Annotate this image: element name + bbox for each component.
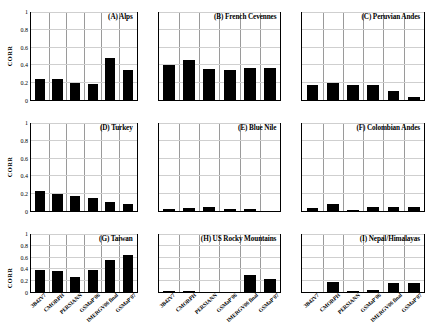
y-axis-ticks: 00.20.40.60.81 [0,111,30,222]
bar-slot [49,13,67,100]
bar-slot [343,124,363,211]
y-axis-ticks: 00.20.40.60.81 [144,111,158,222]
bar [70,196,80,211]
bar-series [159,124,281,211]
bar-slot [66,13,84,100]
x-tick-label: 3B42V7 [303,292,321,309]
axes-frame: (B) French Cevennes [158,12,282,101]
y-axis-ticks: 00.20.40.60.81 [0,222,30,333]
bar [105,260,115,292]
bar-slot [49,235,67,292]
bar [163,209,175,211]
bar-series [159,235,281,292]
bar-slot [159,124,179,211]
axes-frame: (E) Blue Nile [158,123,282,212]
bar-slot [404,13,424,100]
bar-series [302,13,424,100]
bar [35,270,45,292]
y-axis-ticks: 00.20.40.60.81 [287,111,301,222]
bar-slot [363,235,383,292]
y-tick-label: 0 [25,98,28,104]
y-tick-label: 0.2 [21,80,29,86]
bar [123,255,133,292]
bar-slot [302,13,322,100]
plot-area: (G) Taiwan [30,234,138,293]
bar-series [31,235,137,292]
bar [35,191,45,211]
y-axis-ticks: 00.20.40.60.81 [144,0,158,111]
bar-slot [323,235,343,292]
panel-title: (G) Taiwan [99,235,133,243]
bar-slot [84,235,102,292]
panel-title: (D) Turkey [100,124,133,132]
bar-slot [260,124,280,211]
bar-slot [31,235,49,292]
bar [367,85,379,100]
bar-slot [383,13,403,100]
panel-title: (E) Blue Nile [238,124,276,132]
panel-i: 00.20.40.60.81(I) Nepal/Himalayas3B42V7C… [287,222,431,333]
panel-h: 00.20.40.60.81(H) US Rocky Mountains3B42… [144,222,288,333]
bar-series [31,13,137,100]
plot-area: (A) Alps [30,12,138,101]
bar-slot [404,124,424,211]
bar-slot [383,235,403,292]
x-axis-ticks: 3B42V7CMORPHPERSIANNGSMaP'06IMERGV06 fin… [30,291,138,333]
y-tick-label: 0.4 [21,266,29,272]
plot-area: (C) Peruvian Andes [301,12,425,101]
bar [183,60,195,100]
bar-slot [101,124,119,211]
panel-title: (C) Peruvian Andes [362,13,421,21]
bar [123,204,133,211]
panel-b: 00.20.40.60.81(B) French Cevennes [144,0,288,111]
bar-slot [199,235,219,292]
bar [388,91,400,100]
panel-title: (I) Nepal/Himalayas [360,235,420,243]
panel-g: 00.20.40.60.81CORR(G) Taiwan3B42V7CMORPH… [0,222,144,333]
y-tick-label: 0.4 [21,173,29,179]
figure-bar-chart-grid: 00.20.40.60.81CORR(A) Alps00.20.40.60.81… [0,0,431,333]
bar-slot [383,124,403,211]
y-axis-ticks: 00.20.40.60.81 [144,222,158,333]
bar [70,83,80,100]
bar-series [302,235,424,292]
axes-frame: (F) Colombian Andes [301,123,425,212]
y-tick-label: 0.6 [21,255,29,261]
bar-slot [363,124,383,211]
bar-slot [240,235,260,292]
bar-slot [404,235,424,292]
plot-area: (F) Colombian Andes [301,123,425,212]
panel-grid: 00.20.40.60.81CORR(A) Alps00.20.40.60.81… [0,0,431,333]
panel-title: (B) French Cevennes [214,13,276,21]
bar [327,83,339,100]
y-tick-label: 0 [25,209,28,215]
bar-slot [159,13,179,100]
bar-slot [199,124,219,211]
bar [388,207,400,211]
bar-slot [101,13,119,100]
plot-area: (E) Blue Nile [158,123,282,212]
x-tick-label: GSMaP'07 [400,292,423,313]
bar [35,79,45,100]
axes-frame: (G) Taiwan [30,234,138,293]
bar-slot [343,235,363,292]
bar [105,202,115,211]
axes-frame: (I) Nepal/Himalayas [301,234,425,293]
plot-area: (B) French Cevennes [158,12,282,101]
bar-slot [363,13,383,100]
bar [307,208,319,211]
y-tick-label: 0.6 [21,45,29,51]
bar-slot [31,124,49,211]
y-tick-label: 0.8 [21,243,29,249]
axes-frame: (D) Turkey [30,123,138,212]
bar [224,209,236,211]
bar-slot [101,235,119,292]
bar [244,209,256,211]
y-axis-ticks: 00.20.40.60.81 [287,0,301,111]
bar [408,97,420,100]
bar [327,204,339,211]
x-tick-label: 3B42V7 [159,292,177,309]
bar-slot [66,124,84,211]
x-axis-ticks: 3B42V7CMORPHPERSIANNGSMaP'06IMERGV06 fin… [301,291,425,333]
panel-title: (H) US Rocky Mountains [201,235,276,243]
